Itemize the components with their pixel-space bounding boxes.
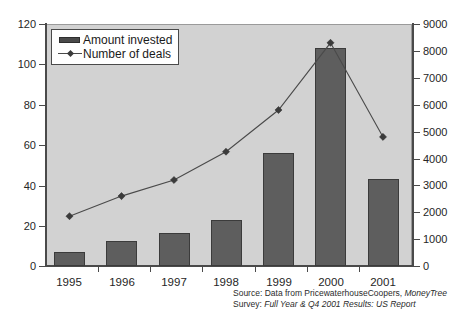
right-axis-tick: [413, 78, 420, 79]
left-axis-label-120: 120: [0, 19, 36, 30]
right-axis-tick: [413, 132, 420, 133]
x-axis-label-1997: 1997: [146, 276, 202, 288]
right-axis-tick: [413, 212, 420, 213]
legend-line-swatch-icon: [57, 47, 83, 61]
bottom-axis-tick: [255, 266, 256, 272]
legend-bar-swatch-icon: [57, 33, 83, 47]
bar-1995: [54, 252, 85, 266]
left-axis-tick: [39, 64, 46, 65]
bar-1998: [211, 220, 242, 266]
legend-item-amount-invested: Amount invested: [57, 33, 172, 47]
bottom-axis-tick: [307, 266, 308, 272]
right-axis-label-7000: 7000: [423, 73, 450, 84]
bottom-axis-tick: [150, 266, 151, 272]
bottom-axis-tick: [98, 266, 99, 272]
right-axis-label-3000: 3000: [423, 180, 450, 191]
source-note-line-1-plain: Source: Data from PricewaterhouseCoopers…: [233, 288, 405, 298]
x-axis-label-2000: 2000: [303, 276, 359, 288]
legend-label-number-of-deals: Number of deals: [83, 48, 171, 61]
bar-1997: [159, 233, 190, 266]
left-axis-tick: [39, 24, 46, 25]
source-note-line-1: Source: Data from PricewaterhouseCoopers…: [233, 288, 448, 299]
left-axis-tick: [39, 105, 46, 106]
right-axis-label-0: 0: [423, 261, 450, 272]
left-axis-tick: [39, 145, 46, 146]
bar-2000: [315, 48, 346, 266]
right-axis-label-2000: 2000: [423, 207, 450, 218]
left-axis-tick: [39, 186, 46, 187]
right-axis-label-5000: 5000: [423, 127, 450, 138]
right-axis-label-1000: 1000: [423, 234, 450, 245]
right-axis-label-9000: 9000: [423, 19, 450, 30]
right-axis-label-4000: 4000: [423, 154, 450, 165]
bar-2001: [368, 179, 399, 266]
x-axis-label-1998: 1998: [198, 276, 254, 288]
right-axis-tick: [413, 24, 420, 25]
source-note-line-2-plain: Survey:: [233, 299, 264, 309]
left-axis-label-20: 20: [0, 221, 36, 232]
left-axis-label-100: 100: [0, 59, 36, 70]
source-note-line-2-italic: Full Year & Q4 2001 Results: US Report: [264, 299, 416, 309]
source-note-line-1-italic: MoneyTree: [405, 288, 447, 298]
x-axis-label-1996: 1996: [94, 276, 150, 288]
bottom-axis-tick: [202, 266, 203, 272]
right-axis-tick: [413, 159, 420, 160]
bottom-axis-tick: [359, 266, 360, 272]
x-axis-label-1995: 1995: [41, 276, 97, 288]
right-axis-tick: [413, 239, 420, 240]
legend-item-number-of-deals: Number of deals: [57, 47, 172, 61]
chart-container: 120 100 80 60 40 20 0 9000 8000 7000 600…: [0, 0, 450, 311]
right-axis-label-8000: 8000: [423, 46, 450, 57]
x-axis-label-1999: 1999: [251, 276, 307, 288]
left-axis-label-40: 40: [0, 181, 36, 192]
bar-1996: [106, 241, 137, 266]
left-axis-tick: [39, 226, 46, 227]
x-axis-label-2001: 2001: [355, 276, 411, 288]
right-axis-tick: [413, 266, 420, 267]
left-axis-label-0: 0: [0, 261, 36, 272]
chart-legend: Amount invested Number of deals: [51, 29, 179, 65]
right-axis-tick: [413, 51, 420, 52]
right-axis-line: [412, 23, 414, 267]
legend-label-amount-invested: Amount invested: [83, 34, 172, 47]
right-axis-label-6000: 6000: [423, 100, 450, 111]
source-note-line-2: Survey: Full Year & Q4 2001 Results: US …: [233, 299, 448, 310]
left-axis-tick: [39, 266, 46, 267]
left-axis-label-80: 80: [0, 100, 36, 111]
source-note: Source: Data from PricewaterhouseCoopers…: [233, 288, 448, 309]
bar-1999: [263, 153, 294, 266]
right-axis-tick: [413, 185, 420, 186]
left-axis-label-60: 60: [0, 140, 36, 151]
right-axis-tick: [413, 105, 420, 106]
